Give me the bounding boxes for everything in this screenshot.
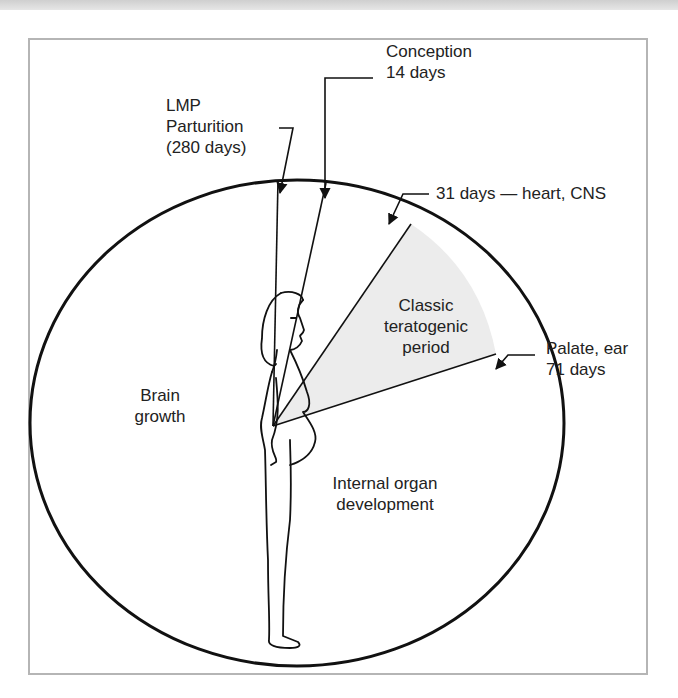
label-parturition: Parturition <box>166 116 243 137</box>
label-organ-2: development <box>305 494 465 515</box>
label-classic-2: teratogenic <box>356 316 496 337</box>
label-palate-ear: Palate, ear <box>546 338 628 359</box>
label-organ-1: Internal organ <box>305 473 465 494</box>
label-conception-days: 14 days <box>386 62 446 83</box>
woman-figure-icon <box>261 292 316 648</box>
label-palate-ear-days: 71 days <box>546 359 606 380</box>
label-parturition-days: (280 days) <box>166 137 246 158</box>
label-brain-2: growth <box>110 406 210 427</box>
label-conception: Conception <box>386 41 472 62</box>
label-classic-3: period <box>376 337 476 358</box>
label-brain-1: Brain <box>110 385 210 406</box>
label-heart-cns: 31 days — heart, CNS <box>436 183 606 204</box>
label-classic-1: Classic <box>376 295 476 316</box>
label-lmp: LMP <box>166 95 201 116</box>
